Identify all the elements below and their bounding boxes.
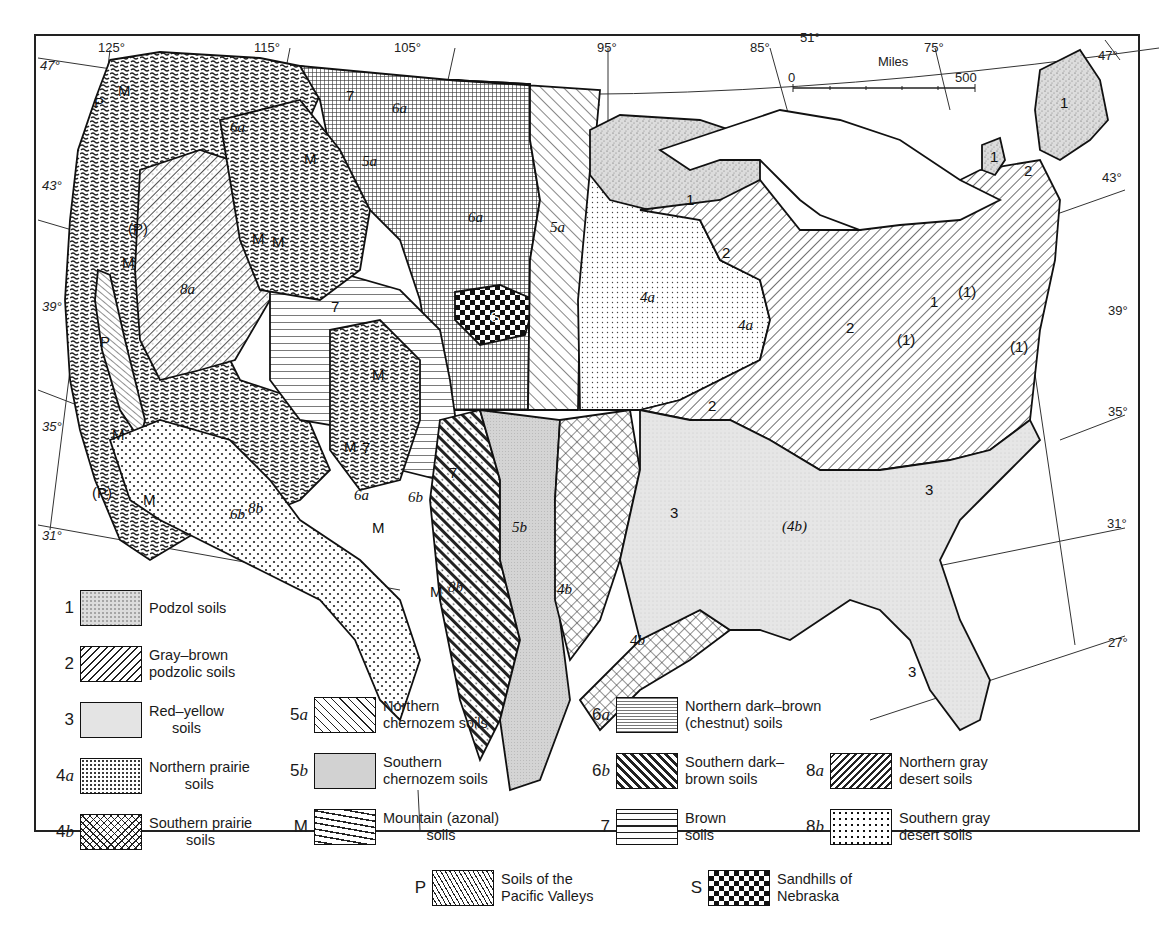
legend-label: soils [149, 720, 224, 737]
svg-text:M: M [143, 491, 156, 508]
legend-item-southern-chernozem: 5b Southern chernozem soils [282, 753, 488, 789]
legend-item-southern-dark-brown: 6b Southern dark– brown soils [584, 753, 784, 789]
legend-label: Mountain (azonal) [383, 810, 499, 827]
legend-code: 3 [48, 710, 74, 730]
svg-text:35°: 35° [42, 419, 62, 434]
legend-code: 4a [48, 766, 74, 786]
legend-code: 1 [48, 598, 74, 618]
svg-text:M: M [372, 366, 385, 383]
svg-text:6b: 6b [408, 489, 424, 505]
svg-text:6a: 6a [468, 209, 483, 225]
legend-code: 6a [584, 705, 610, 725]
legend-label: Northern [383, 698, 488, 715]
legend-label: chernozem soils [383, 771, 488, 788]
legend-label: soils [383, 827, 499, 844]
legend-item-sandhills: S Sandhills of Nebraska [676, 870, 852, 906]
legend-label: desert soils [899, 771, 988, 788]
legend-item-pacific-valleys: P Soils of the Pacific Valleys [400, 870, 593, 906]
svg-text:39°: 39° [42, 299, 62, 314]
svg-text:1: 1 [990, 148, 998, 165]
svg-text:4b: 4b [630, 632, 646, 648]
svg-text:115°: 115° [254, 40, 280, 55]
svg-text:31°: 31° [1107, 516, 1127, 531]
svg-text:M: M [112, 426, 125, 443]
legend-label: (chestnut) soils [685, 715, 821, 732]
northern-gray-desert-swatch [830, 753, 892, 789]
legend-item-mountain: M Mountain (azonal) soils [282, 809, 499, 845]
svg-text:2: 2 [708, 397, 716, 414]
gray-brown-swatch [80, 646, 142, 682]
svg-text:1: 1 [686, 191, 694, 208]
region-podzol-maine [1035, 50, 1108, 160]
svg-text:39°: 39° [1108, 303, 1128, 318]
svg-text:5b: 5b [512, 519, 528, 535]
legend-code: P [400, 878, 426, 898]
legend-label: Red–yellow [149, 703, 224, 720]
svg-text:6b: 6b [230, 506, 246, 522]
svg-text:6a: 6a [392, 100, 407, 116]
legend-item-gray-brown: 2 Gray–brown podzolic soils [48, 646, 235, 682]
legend-code: 7 [584, 817, 610, 837]
svg-text:1: 1 [930, 293, 938, 310]
legend-item-northern-chernozem: 5a Northern chernozem soils [282, 697, 488, 733]
legend-code: 2 [48, 654, 74, 674]
northern-dark-brown-swatch [616, 697, 678, 733]
legend-label: Northern gray [899, 754, 988, 771]
svg-text:5a: 5a [550, 219, 565, 235]
svg-text:6a: 6a [354, 487, 369, 503]
legend-label: Southern prairie [149, 815, 252, 832]
legend-label: Southern [383, 754, 488, 771]
svg-text:43°: 43° [1102, 170, 1122, 185]
svg-text:31°: 31° [42, 528, 62, 543]
legend-code: 6b [584, 761, 610, 781]
legend-label: podzolic soils [149, 664, 235, 681]
legend-label: soils [149, 776, 250, 793]
legend-item-northern-prairie: 4a Northern prairie soils [48, 758, 250, 794]
svg-text:M: M [252, 230, 265, 247]
svg-text:95°: 95° [597, 40, 617, 55]
svg-text:Miles: Miles [878, 54, 909, 69]
legend-label: Brown [685, 810, 726, 827]
svg-text:75°: 75° [924, 40, 944, 55]
svg-text:3: 3 [908, 663, 916, 680]
legend-code: 8b [798, 817, 824, 837]
longitude-labels: 125° 115° 105° 95° 85° 51° 75° [98, 30, 944, 55]
southern-dark-brown-swatch [616, 753, 678, 789]
legend-label: brown soils [685, 771, 784, 788]
sandhills-swatch [708, 870, 770, 906]
svg-text:M: M [122, 254, 135, 271]
svg-text:M: M [118, 82, 131, 99]
mountain-swatch [314, 809, 376, 845]
svg-text:8b: 8b [448, 579, 464, 595]
legend-item-northern-gray-desert: 8a Northern gray desert soils [798, 753, 988, 789]
legend-label: Podzol soils [149, 600, 226, 617]
svg-text:(1): (1) [958, 283, 976, 300]
southern-gray-desert-swatch [830, 809, 892, 845]
svg-text:P: P [94, 94, 104, 111]
svg-text:(1): (1) [1010, 338, 1028, 355]
svg-text:47°: 47° [1098, 48, 1118, 63]
svg-text:M: M [272, 233, 285, 250]
svg-text:P: P [100, 333, 110, 350]
southern-prairie-swatch [80, 814, 142, 850]
svg-text:85°: 85° [750, 40, 770, 55]
svg-text:(P): (P) [128, 220, 148, 237]
svg-text:7: 7 [362, 439, 370, 456]
svg-text:(4b): (4b) [782, 518, 807, 535]
svg-text:3: 3 [925, 481, 933, 498]
legend-label: Pacific Valleys [501, 888, 593, 905]
svg-text:500: 500 [955, 70, 977, 85]
legend-item-southern-prairie: 4b Southern prairie soils [48, 814, 252, 850]
legend-label: Sandhills of [777, 871, 852, 888]
legend-label: chernozem soils [383, 715, 488, 732]
latitude-labels-left: 47° 43° 39° 35° 31° [40, 58, 62, 543]
brown-swatch [616, 809, 678, 845]
svg-text:2: 2 [722, 244, 730, 261]
svg-text:47°: 47° [40, 58, 60, 73]
svg-text:4a: 4a [640, 289, 655, 305]
legend-label: Northern prairie [149, 759, 250, 776]
legend-code: 5b [282, 761, 308, 781]
latitude-labels-right: 47° 43° 39° 35° 31° 27° [1098, 48, 1128, 650]
svg-text:7: 7 [449, 464, 457, 481]
svg-text:2: 2 [846, 319, 854, 336]
